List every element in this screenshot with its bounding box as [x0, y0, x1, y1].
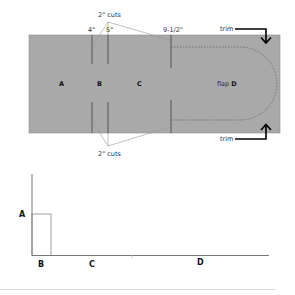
chart-label-a: A	[19, 210, 26, 219]
bag-pattern-diagram: 2" cuts 2" cuts 4" 5" 9-1/2" A B C flap …	[0, 0, 295, 295]
segment-b-label: B	[97, 80, 102, 88]
measurement-9half: 9-1/2"	[163, 26, 183, 34]
trim-label-top: trim	[220, 25, 233, 33]
chart-label-b: B	[38, 260, 44, 269]
flap-d-label: flap D	[217, 80, 237, 88]
proportion-chart: A B C D	[19, 174, 269, 269]
pattern-body	[29, 35, 280, 133]
flap-prefix: flap	[217, 80, 231, 88]
measurement-4in: 4"	[88, 26, 95, 34]
chart-label-c: C	[89, 260, 95, 269]
segment-c-label: C	[137, 80, 142, 88]
segment-d-label: D	[231, 80, 237, 88]
segment-box	[32, 214, 51, 256]
trim-label-bottom: trim	[220, 135, 233, 143]
segment-a-label: A	[59, 80, 64, 88]
cuts-label-bottom: 2" cuts	[98, 150, 121, 158]
measurement-5in: 5"	[106, 26, 113, 34]
cuts-label-top: 2" cuts	[98, 11, 121, 19]
chart-label-d: D	[197, 258, 204, 267]
